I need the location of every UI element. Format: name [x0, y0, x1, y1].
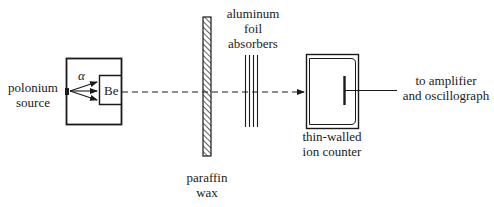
alpha-particle-arrows — [70, 82, 97, 100]
svg-text:paraffin: paraffin — [187, 170, 228, 185]
svg-text:thin-walled: thin-walled — [302, 129, 362, 144]
beryllium-label: Be — [104, 83, 119, 98]
aluminum-foil-absorbers — [246, 55, 258, 127]
svg-text:ion counter: ion counter — [303, 144, 363, 159]
ion-counter-outer-wall — [307, 55, 359, 129]
svg-text:wax: wax — [196, 185, 218, 200]
ion-counter-inner-wall — [310, 59, 356, 125]
polonium-source-dot — [65, 88, 69, 95]
svg-text:and oscillograph: and oscillograph — [403, 88, 490, 103]
chadwick-neutron-apparatus-diagram: polonium source Be α paraffin wax alumin… — [0, 0, 494, 207]
svg-text:source: source — [16, 95, 50, 110]
svg-text:foil: foil — [244, 21, 262, 36]
output-destination-label: to amplifier and oscillograph — [403, 73, 490, 103]
alpha-label: α — [78, 68, 86, 83]
svg-text:polonium: polonium — [8, 80, 58, 95]
svg-text:to amplifier: to amplifier — [415, 73, 477, 88]
paraffin-wax-slab — [203, 17, 211, 156]
aluminum-foil-label: aluminum foil absorbers — [227, 6, 280, 51]
paraffin-wax-label: paraffin wax — [187, 170, 228, 200]
polonium-source-label: polonium source — [8, 80, 58, 110]
ion-counter-label: thin-walled ion counter — [302, 129, 362, 159]
svg-text:aluminum: aluminum — [227, 6, 280, 21]
svg-text:absorbers: absorbers — [228, 36, 278, 51]
